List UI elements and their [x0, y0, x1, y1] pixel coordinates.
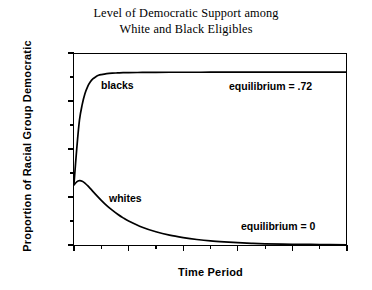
chart-figure: Level of Democratic Support among White … — [0, 0, 372, 290]
chart-title: Level of Democratic Support among White … — [0, 6, 372, 37]
x-tick-60 — [237, 245, 238, 251]
plot-frame-top — [74, 53, 347, 54]
x-tick-0 — [73, 245, 74, 251]
x-tick-80 — [292, 245, 293, 251]
series-label-whites: whites — [109, 192, 142, 204]
x-tick-minor-10 — [101, 245, 102, 249]
x-tick-minor-90 — [319, 245, 320, 249]
x-axis-label: Time Period — [74, 266, 347, 278]
x-tick-minor-30 — [155, 245, 156, 249]
y-tick-0.6 — [68, 100, 74, 101]
y-tick-minor-0.7 — [70, 76, 74, 77]
x-tick-20 — [128, 245, 129, 251]
series-label-blacks: blacks — [101, 79, 134, 91]
y-tick-0.4 — [68, 148, 74, 149]
y-tick-0.2 — [68, 196, 74, 197]
chart-title-line-1: Level of Democratic Support among — [0, 6, 372, 22]
y-tick-minor-0.3 — [70, 172, 74, 173]
y-tick-0.8 — [68, 52, 74, 53]
annotation-equilibrium-whites: equilibrium = 0 — [241, 220, 315, 232]
plot-frame-right — [346, 53, 347, 245]
x-tick-40 — [183, 245, 184, 251]
y-axis-label: Proportion of Racial Group Democratic — [21, 31, 33, 261]
curve-whites — [74, 181, 347, 245]
annotation-equilibrium-blacks: equilibrium = .72 — [229, 80, 312, 92]
x-tick-minor-70 — [265, 245, 266, 249]
chart-title-line-2: White and Black Eligibles — [0, 22, 372, 38]
x-tick-minor-50 — [210, 245, 211, 249]
y-tick-minor-0.1 — [70, 220, 74, 221]
x-tick-100 — [346, 245, 347, 251]
y-tick-minor-0.5 — [70, 124, 74, 125]
